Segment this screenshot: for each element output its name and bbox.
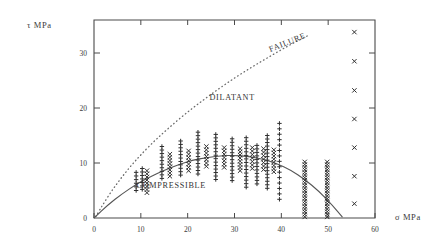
y-tick-label: 30 [80,49,88,58]
plus-marker [277,175,281,179]
cross-marker [238,147,242,151]
plus-marker [244,136,248,140]
plus-marker [277,181,281,185]
plus-marker [277,121,281,125]
y-tick-label: 0 [83,214,87,223]
plus-marker [160,144,164,148]
chart-annotation: COMPRESSIBLE [137,181,206,190]
cross-marker [204,144,208,148]
cross-marker [352,202,356,206]
plus-marker [196,130,200,134]
chart-annotation: FAILURE [268,31,307,54]
plus-marker [277,159,281,163]
plus-marker [277,186,281,190]
plus-marker [277,170,281,174]
plus-marker [134,170,138,174]
plus-marker [277,143,281,147]
cross-marker [261,147,265,151]
x-tick-label: 50 [324,225,332,234]
cross-marker [352,88,356,92]
plus-marker [265,133,269,137]
y-tick-label: 10 [80,159,88,168]
right-edge-crosses [352,30,356,206]
plus-marker [277,127,281,131]
cross-marker [168,152,172,156]
plus-marker [277,132,281,136]
cross-marker [352,59,356,63]
x-tick-label: 30 [231,225,239,234]
cross-marker [186,149,190,153]
plus-marker [277,192,281,196]
cross-marker [352,30,356,34]
cross-marker [250,145,254,149]
chart-annotation: DILATANT [209,93,254,102]
plus-marker [277,148,281,152]
chart-canvas: 01020304050600102030FAILUREDILATANTCOMPR… [0,0,439,251]
plus-marker [277,197,281,201]
plus-marker [230,137,234,141]
figure-container: 01020304050600102030FAILUREDILATANTCOMPR… [0,0,439,251]
x-tick-label: 20 [184,225,192,234]
plus-marker [277,137,281,141]
plus-marker [178,139,182,143]
cross-marker [303,160,307,164]
cross-marker [272,148,276,152]
cross-marker [352,145,356,149]
tick-labels: 01020304050600102030 [80,49,380,234]
x-tick-label: 40 [278,225,286,234]
x-tick-label: 60 [371,225,379,234]
y-tick-label: 20 [80,104,88,113]
cross-marker [145,169,149,173]
plus-marker [140,166,144,170]
y-axis-title: τ MPa [27,20,52,30]
x-axis-title: σ MPa [395,212,421,222]
cross-marker [222,145,226,149]
plus-marker [214,132,218,136]
x-tick-label: 0 [92,225,96,234]
plus-marker [277,154,281,158]
x-tick-label: 10 [137,225,145,234]
cross-marker [352,174,356,178]
cross-marker [352,117,356,121]
plus-marker [255,143,259,147]
cross-marker [325,160,329,164]
